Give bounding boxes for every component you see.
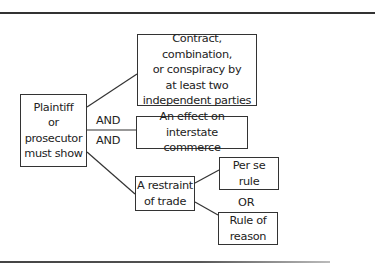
and-label-1: AND: [96, 114, 120, 128]
interstate-commerce-box: An effect on interstate commerce: [136, 116, 248, 149]
plaintiff-box: Plaintiff or prosecutor must show: [20, 94, 87, 167]
rule-of-reason-box: Rule of reason: [218, 212, 278, 245]
and-label-2: AND: [96, 134, 120, 148]
contract-combination-box: Contract, combination, or conspiracy by …: [137, 34, 257, 106]
restraint-of-trade-box: A restraint of trade: [135, 176, 195, 211]
per-se-rule-box: Per se rule: [219, 157, 279, 190]
bottom-rule: [0, 261, 330, 263]
or-label: OR: [238, 196, 254, 210]
